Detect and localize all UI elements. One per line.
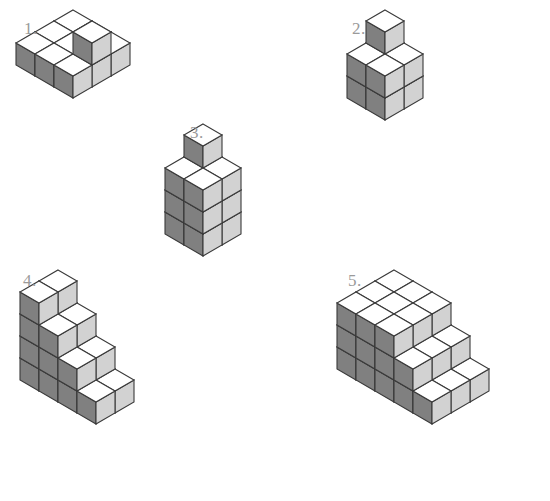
figure-4-label: 4.	[23, 272, 37, 289]
figure-1-label: 1.	[24, 20, 38, 37]
figure-4	[18, 268, 253, 453]
figure-2-drawing	[345, 8, 535, 138]
figure-5	[335, 268, 550, 501]
figure-1-drawing	[14, 8, 264, 138]
figure-5-label: 5.	[348, 272, 362, 289]
figure-2-label: 2.	[352, 20, 366, 37]
figure-3-drawing	[163, 122, 348, 292]
figure-3	[163, 122, 348, 292]
worksheet-page: 1.2.3.4.5.	[0, 0, 550, 501]
figure-4-drawing	[18, 268, 253, 453]
figure-3-label: 3.	[190, 124, 204, 141]
figure-5-drawing	[335, 268, 550, 501]
figure-1	[14, 8, 264, 138]
figure-2	[345, 8, 535, 138]
